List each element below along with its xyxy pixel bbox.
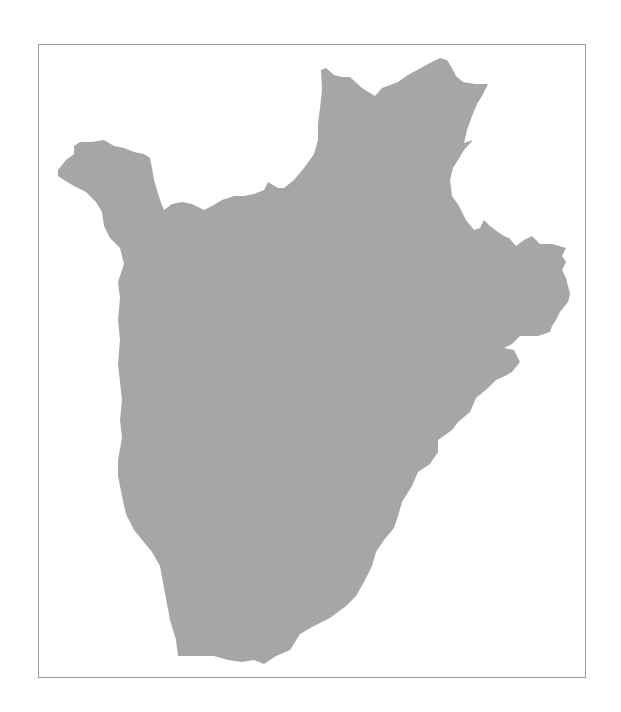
map-canvas — [0, 0, 621, 712]
country-shape-burundi — [58, 58, 570, 664]
